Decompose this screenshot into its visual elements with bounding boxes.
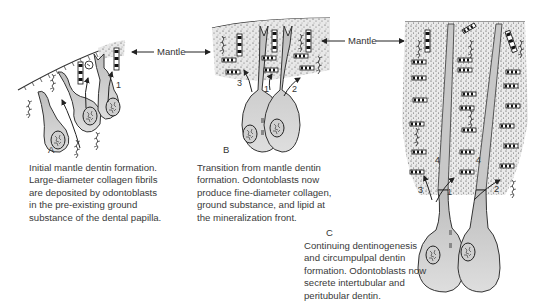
panel-b-number-2: 2 [292,84,297,94]
panel-c-number-1: 1 [447,187,452,197]
panel-c-number-4b: 4 [476,155,481,165]
panel-c-number-2: 2 [494,184,499,194]
panel-b-number-3: 3 [237,78,242,88]
dentinogenesis-figure: 1 A Mantle 3 1 2 B [0,0,537,307]
panel-c-number-3: 3 [418,185,423,195]
panel-b-label: B [223,144,229,155]
panel-c-label: C [326,227,333,238]
panel-b-caption: Transition from mantle dentin formation.… [197,162,331,224]
panel-c-caption: Continuing dentinogenesis and circumpulp… [304,240,426,302]
panel-b-illustration: 3 1 2 [212,18,330,152]
panel-a-label: A [48,144,55,155]
mantle-label-left: Mantle [157,46,186,57]
panel-c-number-4a: 4 [435,155,440,165]
panel-b-number-1: 1 [264,84,269,94]
panel-a-illustration: 1 [18,40,125,158]
panel-a-number-1: 1 [116,80,121,90]
mantle-label-right: Mantle [348,35,377,46]
panel-a-caption: Initial mantle dentin formation. Large-d… [29,162,161,224]
